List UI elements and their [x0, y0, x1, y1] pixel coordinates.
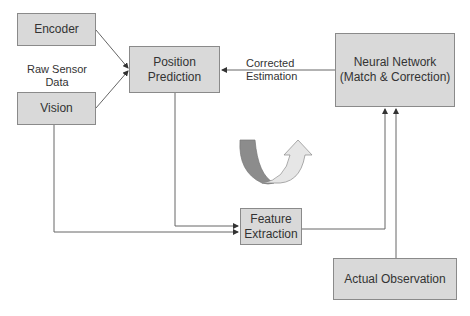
position-prediction-line2: Prediction [148, 70, 201, 85]
corrected-line1: Corrected [246, 57, 297, 70]
feature-extraction-box: Feature Extraction [240, 208, 302, 245]
encoder-box: Encoder [17, 13, 96, 46]
position-prediction-line1: Position [153, 55, 196, 70]
neural-network-line1: Neural Network [354, 55, 437, 70]
vision-label: Vision [40, 101, 72, 116]
actual-observation-box: Actual Observation [333, 258, 457, 300]
cycle-arrow-icon [240, 140, 312, 184]
neural-network-line2: (Match & Correction) [340, 70, 451, 85]
position-prediction-box: Position Prediction [129, 46, 220, 93]
feature-extraction-line2: Extraction [244, 227, 297, 242]
diagram-canvas: Encoder Raw Sensor Data Vision Position … [0, 0, 470, 316]
encoder-label: Encoder [34, 22, 79, 37]
corrected-line2: Estimation [246, 70, 297, 83]
actual-observation-label: Actual Observation [344, 272, 445, 287]
feature-extraction-line1: Feature [250, 212, 291, 227]
raw-sensor-line1: Raw Sensor [22, 63, 92, 76]
vision-box: Vision [17, 92, 96, 125]
neural-network-box: Neural Network (Match & Correction) [335, 33, 455, 107]
raw-sensor-data-label: Raw Sensor Data [22, 63, 92, 89]
raw-sensor-line2: Data [22, 76, 92, 89]
corrected-estimation-label: Corrected Estimation [246, 57, 297, 83]
